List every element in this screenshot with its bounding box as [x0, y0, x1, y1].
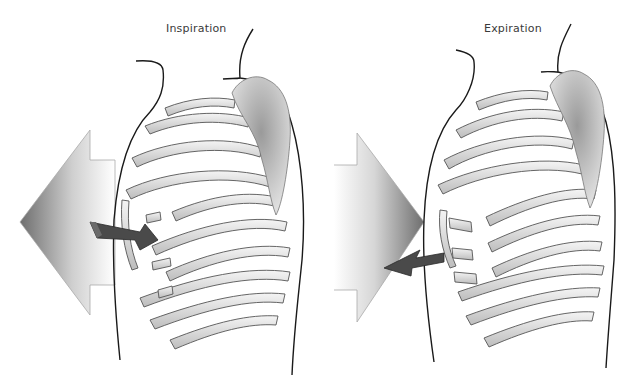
expiration-label: Expiration: [484, 22, 542, 35]
expiration-illustration: [316, 0, 632, 389]
contraction-arrow: [334, 133, 424, 322]
expansion-arrow: [20, 130, 115, 315]
inspiration-label: Inspiration: [166, 22, 227, 35]
expiration-panel: Expiration: [316, 0, 632, 389]
inspiration-illustration: [0, 0, 316, 389]
inspiration-panel: Inspiration: [0, 0, 316, 389]
